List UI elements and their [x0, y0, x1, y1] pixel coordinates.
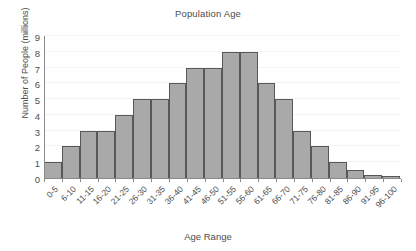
- bar[interactable]: [347, 170, 365, 178]
- x-tick-label-cell: 86-90: [347, 182, 365, 228]
- bar[interactable]: [329, 162, 347, 178]
- y-tick-label: 9: [4, 32, 40, 43]
- bar[interactable]: [115, 115, 133, 178]
- x-tick-label-cell: 41-45: [187, 182, 205, 228]
- y-tick-label: 5: [4, 95, 40, 106]
- bar[interactable]: [293, 131, 311, 178]
- y-axis-tick-labels: 0123456789: [0, 36, 40, 179]
- x-tick-label-cell: 56-60: [240, 182, 258, 228]
- x-tick-label-cell: 0-5: [44, 182, 62, 228]
- x-tick-label-cell: 76-80: [312, 182, 330, 228]
- bar[interactable]: [151, 99, 169, 178]
- y-tick-label: 2: [4, 142, 40, 153]
- y-axis-line: [44, 36, 45, 179]
- y-tick-label: 7: [4, 63, 40, 74]
- x-tick-label-cell: 96-100: [383, 182, 401, 228]
- x-tick-label-cell: 36-40: [169, 182, 187, 228]
- x-tick-label-cell: 51-55: [222, 182, 240, 228]
- plot-area: [44, 36, 400, 178]
- bar[interactable]: [80, 131, 98, 178]
- x-tick-label-cell: 21-25: [115, 182, 133, 228]
- bar[interactable]: [62, 146, 80, 178]
- bar[interactable]: [258, 83, 276, 178]
- y-tick-label: 6: [4, 79, 40, 90]
- bar[interactable]: [311, 146, 329, 178]
- x-tick-label-cell: 31-35: [151, 182, 169, 228]
- y-tick-label: 3: [4, 126, 40, 137]
- y-tick-label: 4: [4, 110, 40, 121]
- bar-series: [44, 36, 400, 178]
- bar[interactable]: [44, 162, 62, 178]
- x-tick-label-cell: 71-75: [294, 182, 312, 228]
- x-tick-label-cell: 26-30: [133, 182, 151, 228]
- x-tick-label: 0-5: [44, 184, 60, 200]
- x-axis-tick-labels: 0-56-1011-1516-2021-2526-3031-3536-4041-…: [44, 182, 401, 228]
- bar[interactable]: [169, 83, 187, 178]
- bar[interactable]: [275, 99, 293, 178]
- y-tick-label: 1: [4, 158, 40, 169]
- y-tick-label: 8: [4, 47, 40, 58]
- x-tick-mark: [401, 179, 402, 182]
- x-tick-label-cell: 66-70: [276, 182, 294, 228]
- bar[interactable]: [204, 68, 222, 178]
- x-tick-label-cell: 11-15: [80, 182, 98, 228]
- bar[interactable]: [133, 99, 151, 178]
- x-tick-label-cell: 81-85: [330, 182, 348, 228]
- chart-figure: Population Age Number of People (million…: [0, 0, 416, 251]
- y-tick-label: 0: [4, 174, 40, 185]
- bar[interactable]: [97, 131, 115, 178]
- x-tick-label-cell: 61-65: [258, 182, 276, 228]
- x-tick-label-cell: 16-20: [98, 182, 116, 228]
- bar[interactable]: [186, 68, 204, 178]
- bar[interactable]: [240, 52, 258, 178]
- chart-title: Population Age: [0, 8, 416, 19]
- x-tick-label-cell: 6-10: [62, 182, 80, 228]
- x-tick-label-cell: 46-50: [205, 182, 223, 228]
- x-axis-label: Age Range: [0, 231, 416, 242]
- bar[interactable]: [222, 52, 240, 178]
